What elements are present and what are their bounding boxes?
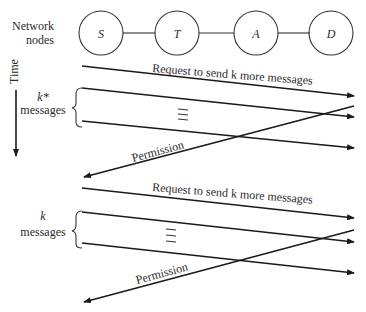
group1-messages-label: messages (20, 103, 66, 117)
group2-messages-label: messages (20, 225, 66, 239)
permission1-arrow (84, 106, 354, 177)
node-a-label: A (251, 27, 260, 41)
group1-first-message-arrow (82, 88, 354, 117)
group2-brace (72, 211, 82, 248)
group2-last-message-arrow (82, 243, 354, 273)
group1-k-star-label: k* (37, 90, 48, 104)
permission2-label: Permission (134, 260, 189, 287)
group1-ellipsis-dashes (178, 109, 188, 120)
network-nodes-label-line1: Network (12, 19, 54, 33)
node-d-label: D (326, 27, 336, 41)
permission1-label: Permission (130, 138, 185, 165)
flow-control-diagram: Network nodes Time k* messages k message… (0, 0, 366, 312)
group2-k-label: k (40, 209, 46, 223)
group1-last-message-arrow (82, 121, 354, 148)
network-nodes-label-line2: nodes (26, 33, 54, 47)
group1-brace (72, 88, 82, 127)
node-s-label: S (98, 27, 104, 41)
node-t-label: T (174, 27, 182, 41)
group2-first-message-arrow (82, 212, 354, 242)
permission2-arrow (84, 230, 354, 302)
group2-ellipsis-dashes (166, 229, 176, 242)
request1-label: Request to send k more messages (152, 61, 314, 88)
time-axis-label: Time (7, 59, 21, 84)
request2-label: Request to send k more messages (152, 180, 314, 207)
